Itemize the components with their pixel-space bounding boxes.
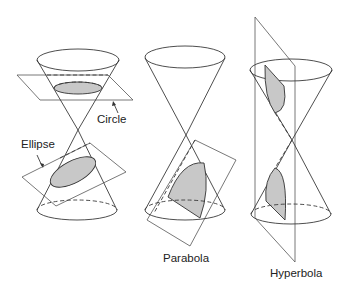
cone-figure-parabola <box>145 46 236 246</box>
upper-cone-rim <box>145 46 225 68</box>
parabola-section <box>168 163 206 218</box>
cone-figure-circle-ellipse <box>17 49 133 220</box>
vertical-plane <box>255 17 295 262</box>
hyperbola-label: Hyperbola <box>270 267 322 279</box>
lower-cone-rim <box>37 210 117 220</box>
hyperbola-upper-section <box>265 65 285 113</box>
ellipse-section <box>46 151 100 194</box>
lower-cone-rim <box>145 210 225 220</box>
upper-cone-rim <box>37 49 119 71</box>
cone-figure-hyperbola <box>250 17 332 262</box>
parabola-label: Parabola <box>163 252 209 264</box>
lower-cone-rim <box>251 214 331 224</box>
circle-label: Circle <box>97 113 126 125</box>
upper-cone-rim <box>250 59 332 81</box>
circle-arrow-icon <box>112 101 116 106</box>
hyperbola-lower-section <box>266 168 286 220</box>
ellipse-label: Ellipse <box>21 138 55 150</box>
